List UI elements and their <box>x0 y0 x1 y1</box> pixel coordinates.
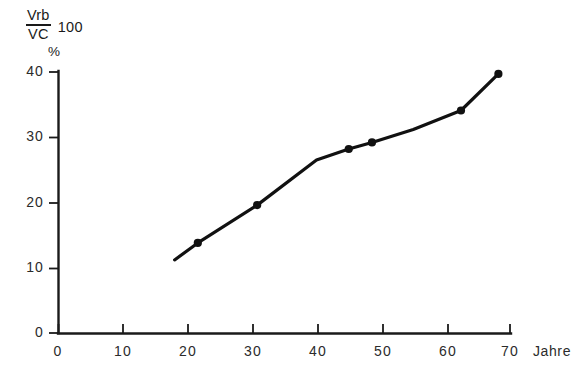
data-point-marker <box>345 145 353 153</box>
y-axis-unit: % <box>48 44 60 59</box>
data-point-marker <box>253 201 261 209</box>
x-axis-label: Jahre <box>533 343 571 359</box>
x-axis-ticks <box>59 324 511 333</box>
data-point-marker <box>457 106 465 114</box>
chart-plot-area <box>0 0 587 373</box>
chart-figure: Vrb VC 100 % 40 30 20 10 0 0 10 20 30 40… <box>0 0 587 373</box>
data-point-marker <box>494 70 502 78</box>
data-series-line <box>175 74 499 260</box>
data-point-markers <box>194 70 503 247</box>
y-axis-ticks <box>49 72 58 333</box>
data-point-marker <box>194 239 202 247</box>
data-point-marker <box>368 138 376 146</box>
